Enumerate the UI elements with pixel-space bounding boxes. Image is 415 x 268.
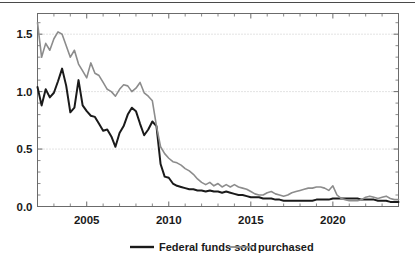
plot-frame: [38, 14, 399, 207]
y-axis-tick-label: 0.0: [17, 201, 33, 213]
y-axis-tick-label: 1.5: [17, 28, 34, 40]
series-line-2: [38, 23, 399, 201]
y-axis-tick-label: 0.5: [17, 143, 34, 155]
legend-label-purchased: purchased: [258, 241, 314, 253]
x-axis-tick-label: 2005: [74, 214, 100, 226]
line-chart: 0.00.51.01.52005201020152020Federal fund…: [0, 0, 415, 268]
x-axis-tick-label: 2015: [238, 214, 264, 226]
figure-container: 0.00.51.01.52005201020152020Federal fund…: [0, 0, 415, 268]
series-line-1: [38, 69, 399, 202]
y-axis-tick-label: 1.0: [17, 86, 33, 98]
x-axis-tick-label: 2010: [156, 214, 182, 226]
x-axis-tick-label: 2020: [320, 214, 346, 226]
chart-legend: Federal funds soldpurchased: [130, 241, 314, 253]
chart-plot-area: 0.00.51.01.52005201020152020Federal fund…: [0, 0, 415, 268]
